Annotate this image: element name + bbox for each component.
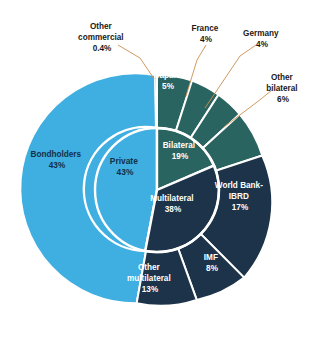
label-imf-name: IMF — [204, 253, 218, 262]
label-other-bilateral-line2: bilateral — [266, 84, 297, 93]
label-germany-name: Germany — [243, 29, 279, 38]
label-world-bank-value: 17% — [232, 203, 249, 212]
label-japan-name: Japan — [155, 71, 179, 80]
label-other-multilateral-line2: multilateral — [127, 274, 171, 283]
label-france-value: 4% — [200, 35, 213, 44]
pie-chart-figure: Other commercial 0.4% France 4% Germany … — [0, 0, 310, 347]
label-france: France 4% — [191, 24, 220, 44]
label-bilateral-name: Bilateral — [163, 141, 195, 150]
label-world-bank-line2: IBRD — [229, 192, 249, 201]
label-other-commercial-line1: Other — [90, 22, 113, 31]
label-multilateral-value: 38% — [165, 205, 182, 214]
label-other-bilateral-value: 6% — [277, 95, 290, 104]
label-japan-value: 5% — [162, 82, 175, 91]
label-imf-value: 8% — [206, 264, 219, 273]
label-other-commercial: Other commercial 0.4% — [78, 22, 126, 53]
label-multilateral-name: Multilateral — [150, 194, 193, 203]
label-germany: Germany 4% — [243, 29, 281, 49]
label-other-bilateral-line1: Other — [271, 73, 294, 82]
label-other-commercial-line2: commercial — [78, 33, 124, 42]
label-other-multilateral-line1: Other — [138, 263, 161, 272]
label-bilateral-value: 19% — [172, 152, 189, 161]
label-bondholders-name: Bondholders — [31, 150, 82, 159]
label-world-bank-line1: World Bank- — [215, 181, 263, 190]
label-other-bilateral: Other bilateral 6% — [266, 73, 300, 104]
label-bondholders-value: 43% — [49, 161, 66, 170]
label-france-name: France — [191, 24, 218, 33]
label-private-value: 43% — [117, 167, 134, 177]
label-other-commercial-value: 0.4% — [93, 44, 112, 53]
nested-donut-chart: Other commercial 0.4% France 4% Germany … — [0, 0, 310, 347]
inner-ring-segments — [84, 127, 219, 252]
label-other-multilateral-value: 13% — [142, 285, 159, 294]
label-private-name: Private — [110, 156, 138, 166]
label-germany-value: 4% — [256, 40, 269, 49]
